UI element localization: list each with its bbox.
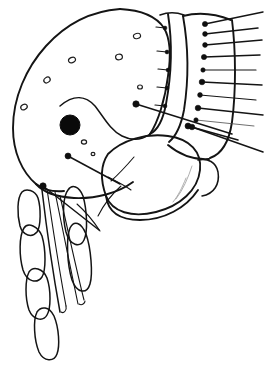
- flea-head-thorax-line-drawing: [0, 0, 267, 366]
- figure-root: [0, 0, 267, 366]
- figure-background: [0, 0, 267, 366]
- eye: [60, 115, 80, 135]
